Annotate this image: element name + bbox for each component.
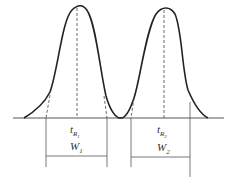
peak2-retention-label: tR2	[157, 124, 167, 140]
peak1-width-label: W1	[70, 141, 83, 155]
peak1-retention-label: tR1	[70, 124, 80, 140]
chromatogram-curve	[24, 6, 208, 118]
peak2-width-label: W2	[157, 142, 170, 156]
chromatogram-diagram	[0, 0, 236, 190]
